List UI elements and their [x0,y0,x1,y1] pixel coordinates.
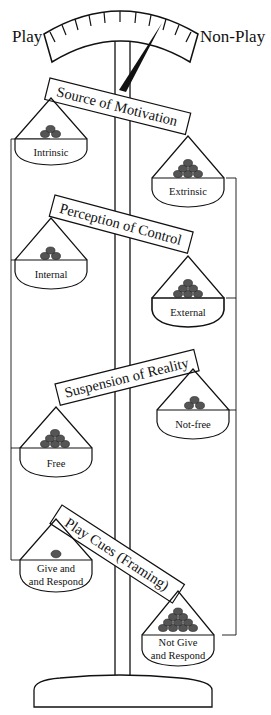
pan-label-line-2: and Respond [29,576,84,587]
stand-base [34,675,212,707]
right-pan-not-free: Not-free [157,369,229,439]
weights [41,126,61,138]
weights [41,430,70,448]
pan-label-line-1: Give and [37,563,76,574]
weights [51,550,61,558]
right-pan-extrinsic: Extrinsic [152,136,224,207]
pan-label: Free [47,458,66,469]
right-pan-not-give-and-respond: Not Give and Respond [142,591,214,666]
pan-label-line-1: Not Give [159,637,198,648]
gauge-left-label: Play [12,27,43,46]
pan-label: External [170,307,206,318]
weights [185,397,205,410]
pan-label: Intrinsic [34,147,69,158]
gauge-right-label: Non-Play [200,27,266,46]
left-pan-intrinsic: Intrinsic [15,98,87,165]
weights [174,160,203,178]
left-pan-internal: Internal [15,218,87,289]
pan-label-line-2: and Respond [151,650,206,661]
play-balance-diagram: Play Non-Play Source of Motivation Intri… [0,0,271,715]
right-pan-external: External [152,256,224,327]
weights [174,280,203,298]
stand-pole [115,33,130,688]
pan-label: Not-free [175,419,211,430]
left-pan-free: Free [20,407,92,477]
weights [41,247,61,260]
pan-label: Internal [35,269,68,280]
weights [159,608,198,632]
pan-label: Extrinsic [169,186,207,197]
